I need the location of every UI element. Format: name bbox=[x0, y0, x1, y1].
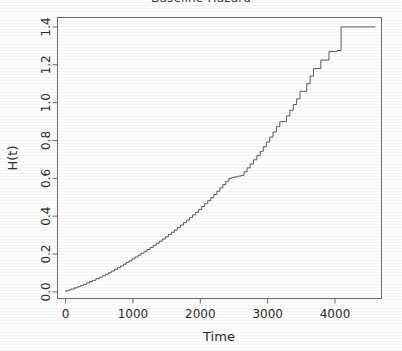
y-tick-label: 1.2 bbox=[40, 55, 54, 74]
plot-frame bbox=[58, 18, 382, 299]
y-tick-label: 0.6 bbox=[40, 169, 54, 188]
x-axis-ticks: 01000200030004000 bbox=[62, 299, 351, 321]
y-tick-label: 0.0 bbox=[40, 282, 54, 301]
x-tick-label: 1000 bbox=[118, 307, 149, 321]
y-axis-ticks: 0.00.20.40.60.81.01.21.4 bbox=[40, 17, 58, 301]
x-tick-label: 3000 bbox=[252, 307, 283, 321]
x-tick-label: 2000 bbox=[185, 307, 216, 321]
x-tick-label: 0 bbox=[62, 307, 70, 321]
y-tick-label: 0.4 bbox=[40, 207, 54, 226]
x-tick-label: 4000 bbox=[320, 307, 351, 321]
y-tick-label: 0.2 bbox=[40, 244, 54, 263]
chart-root: Baseline Hazard 0.00.20.40.60.81.01.21.4… bbox=[0, 0, 402, 351]
y-tick-label: 1.4 bbox=[40, 17, 54, 36]
hazard-plot: 0.00.20.40.60.81.01.21.4 010002000300040… bbox=[0, 0, 402, 351]
y-tick-label: 0.8 bbox=[40, 131, 54, 150]
cumulative-hazard-curve bbox=[66, 27, 376, 292]
x-axis-label: Time bbox=[202, 329, 235, 344]
y-tick-label: 1.0 bbox=[40, 93, 54, 112]
y-axis-label: H(t) bbox=[5, 145, 20, 170]
